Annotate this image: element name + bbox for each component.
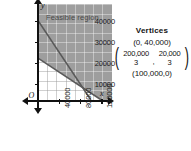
y-axis-arrow-down-icon [34, 108, 42, 114]
x-tick-label: 80000 [84, 88, 93, 108]
x-tick-mark [80, 99, 81, 104]
y-tick-mark [35, 21, 39, 22]
vertex-2-y-numerator: 20,000 [158, 49, 182, 58]
left-paren: ( [115, 49, 119, 67]
origin-label: O [29, 91, 35, 100]
y-tick-label: 40000 [81, 17, 115, 26]
y-tick-mark [35, 63, 39, 64]
x-tick-label: 120000 [105, 84, 114, 108]
vertex-2-x-numerator: 200,000 [122, 49, 150, 58]
vertices-title: Vertices [113, 26, 191, 35]
x-tick-mark [101, 99, 102, 104]
right-paren: ) [185, 49, 189, 67]
feasible-region-chart: Feasible region y x O 40000 30000 20000 … [0, 0, 115, 151]
vertex-2-x-fraction: 200,000 3 [121, 49, 152, 67]
x-tick-label: 40000 [63, 88, 72, 108]
y-axis [37, 2, 39, 112]
figure-root: Feasible region y x O 40000 30000 20000 … [0, 0, 191, 151]
y-tick-label: 30000 [81, 38, 115, 47]
vertex-2-y-denominator: 3 [167, 58, 171, 67]
y-tick-mark [35, 84, 39, 85]
y-axis-name: y [41, 1, 45, 10]
y-tick-label: 20000 [81, 59, 115, 68]
x-tick-mark [59, 99, 60, 104]
vertices-panel: Vertices (0, 40,000) ( 200,000 3 , 20,00… [113, 26, 191, 78]
vertex-2-label: ( 200,000 3 , 20,000 3 ) [113, 49, 191, 67]
vertex-1-label: (0, 40,000) [113, 38, 191, 47]
vertex-3-label: (100,000,0) [113, 69, 191, 78]
vertex-2-y-fraction: 20,000 3 [156, 49, 184, 67]
y-tick-mark [35, 42, 39, 43]
x-axis-name: x [100, 89, 104, 98]
vertex-2-x-denominator: 3 [134, 58, 138, 67]
x-axis-arrow-left-icon [22, 97, 28, 105]
